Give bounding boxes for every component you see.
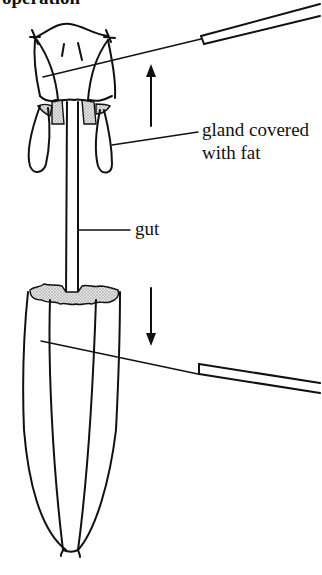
svg-text:operation: operation [2, 0, 81, 8]
label-gut: gut [135, 218, 160, 239]
lower-pin [41, 341, 320, 393]
label-gland-line1: gland covered [202, 119, 310, 140]
arrow-down-icon [146, 288, 156, 346]
upper-pin [43, 4, 320, 77]
gut [66, 102, 78, 300]
label-gland-line2: with fat [202, 142, 261, 163]
arrow-up-icon [146, 64, 156, 126]
glands [29, 106, 112, 173]
abdomen [23, 284, 120, 557]
caption-cut-off: operation [2, 0, 81, 8]
dissection-diagram: operation [0, 0, 322, 575]
